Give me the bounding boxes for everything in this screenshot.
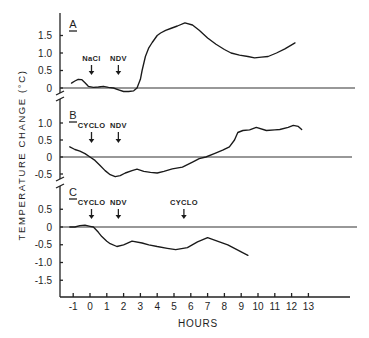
y-tick-label: 1.0 bbox=[38, 118, 52, 129]
x-tick-label: -1 bbox=[69, 301, 78, 312]
annotation-label: NaCl bbox=[82, 54, 100, 63]
x-tick-label: 12 bbox=[286, 301, 298, 312]
panel-letter: A bbox=[69, 18, 77, 30]
annotation-label: NDV bbox=[110, 54, 127, 63]
y-tick-label: -0.5 bbox=[35, 169, 53, 180]
y-tick-label: 0.5 bbox=[38, 135, 52, 146]
y-tick-label: 1.5 bbox=[38, 30, 52, 41]
annotation-label: CYCLO bbox=[78, 121, 106, 130]
x-tick-label: 0 bbox=[87, 301, 93, 312]
x-tick-label: 7 bbox=[205, 301, 211, 312]
y-tick-label: 0 bbox=[46, 152, 52, 163]
x-tick-label: 4 bbox=[154, 301, 160, 312]
panel-letter: C bbox=[69, 186, 77, 198]
y-tick-label: 0.5 bbox=[38, 65, 52, 76]
x-tick-label: 2 bbox=[121, 301, 127, 312]
annotation-label: NDV bbox=[110, 121, 127, 130]
x-axis-title: HOURS bbox=[178, 318, 218, 329]
y-tick-label: 1.0 bbox=[38, 48, 52, 59]
y-tick-label: 0.5 bbox=[38, 204, 52, 215]
annotation-label: CYCLO bbox=[170, 198, 198, 207]
annotation-label: NDV bbox=[110, 198, 127, 207]
panel-letter: B bbox=[69, 109, 76, 121]
x-tick-label: 8 bbox=[222, 301, 228, 312]
x-tick-label: 5 bbox=[171, 301, 177, 312]
y-tick-label: -1.5 bbox=[35, 275, 53, 286]
y-axis-title: TEMPERATURE CHANGE (°C) bbox=[16, 70, 27, 241]
y-tick-label: 0 bbox=[46, 222, 52, 233]
y-tick-label: -0.5 bbox=[35, 239, 53, 250]
figure-background bbox=[0, 0, 369, 338]
x-tick-label: 3 bbox=[138, 301, 144, 312]
x-tick-label: 10 bbox=[252, 301, 264, 312]
y-tick-label: -1.0 bbox=[35, 257, 53, 268]
x-tick-label: 6 bbox=[188, 301, 194, 312]
x-tick-label: 1 bbox=[104, 301, 110, 312]
x-tick-label: 11 bbox=[270, 301, 281, 312]
annotation-label: CYCLO bbox=[78, 198, 106, 207]
temperature-change-figure: TEMPERATURE CHANGE (°C) HOURS 1.51.00.50… bbox=[0, 0, 369, 338]
x-tick-label: 13 bbox=[303, 301, 315, 312]
x-tick-label: 9 bbox=[238, 301, 244, 312]
y-tick-label: 0 bbox=[46, 83, 52, 94]
